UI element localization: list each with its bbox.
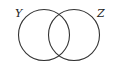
set-z-label: Z [96,7,105,20]
venn-diagram: Y Z [0,0,115,65]
set-y-circle [19,10,70,61]
set-y-label: Y [15,7,24,20]
set-z-circle [49,10,100,61]
